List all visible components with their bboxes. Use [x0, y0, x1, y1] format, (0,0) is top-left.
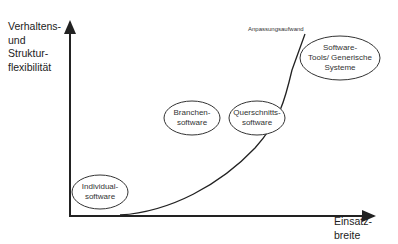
y-axis-label-line: flexibilität	[8, 61, 61, 75]
y-axis-label-line: Verhaltens-	[8, 20, 61, 34]
node-label-line: Individual-	[72, 182, 128, 192]
node-label-line: software	[229, 118, 285, 128]
node-label-line: Querschnitts-	[229, 108, 285, 118]
y-axis-label-line: Struktur-	[8, 47, 61, 61]
curve-annotation: Anpassungsaufwand	[248, 26, 304, 32]
node-querschnittssoftware: Querschnitts- software	[229, 108, 285, 128]
x-axis-label-line: breite	[334, 229, 372, 243]
x-axis-label-line: Einsatz-	[334, 215, 372, 229]
x-axis-label: Einsatz- breite	[334, 215, 372, 242]
node-individualsoftware: Individual- software	[72, 182, 128, 202]
y-axis-label-line: und	[8, 34, 61, 48]
node-label-line: Systeme	[300, 63, 380, 73]
node-software-tools: Software- Tools/ Generische Systeme	[300, 43, 380, 73]
y-axis-label: Verhaltens- und Struktur- flexibilität	[8, 20, 61, 74]
node-branchensoftware: Branchen- software	[164, 108, 220, 128]
node-label-line: software	[164, 118, 220, 128]
node-label-line: Tools/ Generische	[300, 53, 380, 63]
node-label-line: Software-	[300, 43, 380, 53]
node-label-line: software	[72, 192, 128, 202]
node-label-line: Branchen-	[164, 108, 220, 118]
